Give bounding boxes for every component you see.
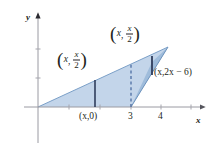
fraction-denominator: 2 — [126, 34, 133, 44]
x-axis-label: x — [196, 116, 201, 125]
fraction-denominator: 2 — [73, 60, 80, 70]
upper-vertex-label: ( x, x 2 ) — [110, 24, 140, 44]
open-paren: ( — [57, 52, 63, 68]
fraction-numerator: x — [126, 24, 132, 34]
x-tick-label-3: 3 — [128, 112, 133, 122]
close-paren: ) — [80, 52, 86, 68]
lower-curve-label: (x,2x − 6) — [154, 68, 192, 78]
lower-curve-label-text: (x,2x − 6) — [154, 67, 192, 77]
fraction-x-over-2: x 2 — [126, 24, 133, 44]
x-tick-label-4: 4 — [158, 112, 163, 122]
left-upper-vertex-label: ( x, x 2 ) — [57, 50, 87, 70]
coordinate-pair: x, x 2 — [63, 50, 80, 70]
coordinate-pair: x, x 2 — [116, 24, 133, 44]
x-axis-point-label-text: (x,0) — [79, 111, 97, 121]
open-paren: ( — [110, 26, 116, 42]
close-paren: ) — [133, 26, 139, 42]
x-axis-point-label: (x,0) — [79, 112, 97, 122]
figure-container: y x 3 4 (x,0) ( x, x 2 ) ( x, x 2 — [0, 0, 224, 149]
fraction-x-over-2: x 2 — [73, 50, 80, 70]
y-axis-label: y — [26, 13, 30, 22]
fraction-numerator: x — [73, 50, 79, 60]
